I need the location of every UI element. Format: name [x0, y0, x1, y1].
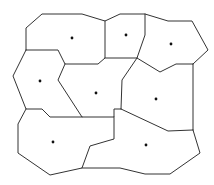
cell-edge [18, 109, 114, 175]
cell-top-middle-site-dot [125, 34, 128, 37]
cell-edge [13, 50, 82, 117]
cell-edge [82, 130, 200, 174]
cell-edge [121, 109, 193, 131]
cell-center-site-dot [95, 92, 98, 95]
cell-top-right-site-dot [170, 43, 173, 46]
cell-edge [26, 21, 105, 64]
voronoi-diagram [0, 0, 214, 185]
cell-edge [58, 64, 121, 117]
cell-edge [121, 58, 137, 109]
cell-bottom-left-site-dot [52, 141, 55, 144]
cell-edges [13, 14, 208, 175]
cell-middle-left-site-dot [39, 80, 42, 83]
cell-middle-right-site-dot [155, 98, 158, 101]
cell-edge [105, 58, 193, 72]
cell-edge [137, 14, 145, 58]
cell-edge [26, 14, 208, 64]
cell-top-left-site-dot [71, 37, 74, 40]
cell-bottom-right-site-dot [145, 144, 148, 147]
